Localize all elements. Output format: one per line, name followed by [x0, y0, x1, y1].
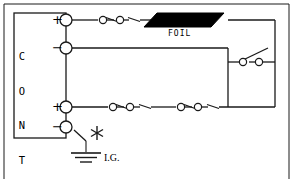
schematic-svg: [0, 0, 293, 183]
terminal-1-sign: +: [52, 13, 63, 26]
switch-row1-b-blade: [128, 18, 140, 22]
ground-label: I.G.: [104, 152, 120, 163]
switch-right-contact-right[interactable]: [255, 58, 262, 65]
foil-element: [144, 13, 224, 27]
switch-row3-c-contact[interactable]: [177, 103, 184, 110]
diagram-canvas: C O N T R O L + − + − FOIL I.G.: [0, 0, 293, 183]
switch-row3-d-blade: [207, 105, 219, 109]
switch-row3-b-blade: [139, 105, 151, 109]
switch-row1-b-contact[interactable]: [116, 16, 123, 23]
switch-row3-d-contact[interactable]: [194, 103, 201, 110]
terminal-2-sign: −: [52, 41, 63, 54]
switch-row3-b-contact[interactable]: [126, 103, 133, 110]
control-box-label: C O N T R O L: [14, 28, 30, 183]
switch-right-contact-left[interactable]: [239, 58, 246, 65]
terminal-3-sign: +: [52, 100, 63, 113]
control-letter: C: [14, 51, 30, 63]
asterisk-icon: [91, 126, 103, 140]
switch-right-blade: [243, 48, 268, 60]
control-letter: T: [14, 155, 30, 167]
switch-row3-a-contact[interactable]: [109, 103, 116, 110]
control-letter: N: [14, 120, 30, 132]
wire-ground-lead: [74, 130, 86, 141]
switch-row1-a-contact[interactable]: [99, 16, 106, 23]
foil-label: FOIL: [168, 29, 191, 38]
control-letter: O: [14, 86, 30, 98]
terminal-4-sign: −: [52, 120, 63, 133]
